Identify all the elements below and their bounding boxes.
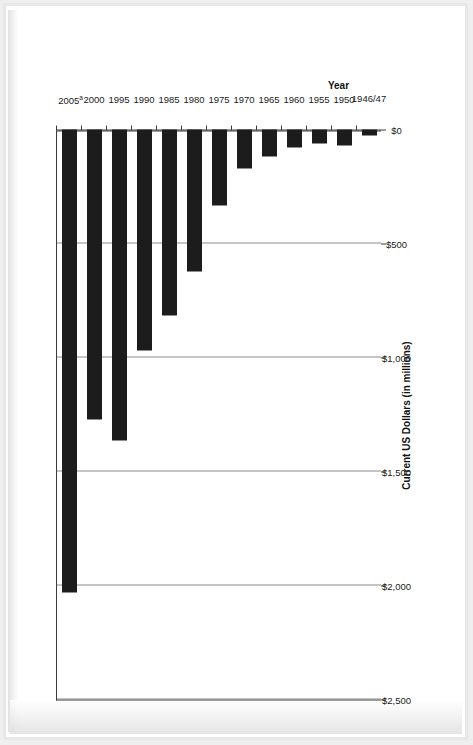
bar (186, 129, 202, 271)
chart-figure: $2,500$2,000$1,500$1,000$500$0 1946/4719… (48, 45, 426, 700)
category-tick-mark (231, 125, 232, 130)
bar (336, 129, 352, 145)
category-tick-label: 1980 (186, 76, 200, 122)
value-tick-label: $0 (391, 110, 402, 150)
category-axis-title-text: Year (327, 80, 348, 91)
bar-row (332, 131, 357, 699)
value-tick-mark (381, 243, 386, 244)
category-tick-mark (131, 125, 132, 130)
bar-row (82, 131, 107, 699)
category-tick-mark (331, 125, 332, 130)
category-tick-label: 1985 (161, 76, 175, 122)
bar-row (132, 131, 157, 699)
value-tick-label: $2,000 (391, 566, 402, 606)
bar (61, 129, 77, 592)
value-tick-mark (381, 129, 386, 130)
value-tick-label: $2,500 (391, 680, 402, 720)
category-tick-label: 2005a (61, 76, 75, 122)
category-tick-label: 1970 (236, 76, 250, 122)
category-tick-label: 1960 (286, 76, 300, 122)
category-tick-mark (281, 125, 282, 130)
bar-row (282, 131, 307, 699)
category-tick-mark (306, 125, 307, 130)
category-tick-label: 1946/47 (361, 76, 375, 122)
category-tick-mark (206, 125, 207, 130)
bar (86, 129, 102, 419)
bar (286, 129, 302, 147)
bar-row (257, 131, 282, 699)
category-tick-label: 2000 (86, 76, 100, 122)
bar (361, 129, 377, 135)
plot-area (56, 130, 381, 700)
bar (211, 129, 227, 205)
category-tick-mark (56, 125, 57, 130)
footnote-marker: a (78, 93, 82, 100)
bar (111, 129, 127, 440)
bar (261, 129, 277, 156)
category-tick-mark (81, 125, 82, 130)
category-tick-label: 1975 (211, 76, 225, 122)
scanned-page: $2,500$2,000$1,500$1,000$500$0 1946/4719… (0, 0, 473, 745)
category-tick-mark (356, 125, 357, 130)
value-tick-label: $1,000 (391, 338, 402, 378)
scan-shadow-left (8, 10, 18, 732)
category-tick-label: 1990 (136, 76, 150, 122)
bar-row (207, 131, 232, 699)
bar-row (107, 131, 132, 699)
bar-row (232, 131, 257, 699)
bar (161, 129, 177, 315)
bar-row (307, 131, 332, 699)
value-tick-label: $1,500 (391, 452, 402, 492)
category-tick-label: 1955 (311, 76, 325, 122)
bar (236, 129, 252, 168)
bar-row (57, 131, 82, 699)
bar-row (157, 131, 182, 699)
bar (311, 129, 327, 143)
category-tick-mark (106, 125, 107, 130)
category-tick-mark (256, 125, 257, 130)
category-tick-mark (156, 125, 157, 130)
category-tick-mark (181, 125, 182, 130)
category-tick-label: 1965 (261, 76, 275, 122)
category-tick-label: 1995 (111, 76, 125, 122)
value-axis-title-text: Current US Dollars (in millions) (401, 341, 412, 489)
bar-row (182, 131, 207, 699)
category-axis-title: Year (333, 75, 344, 96)
value-axis-title: Current US Dollars (in millions) (401, 130, 412, 700)
value-tick-label: $500 (391, 224, 402, 264)
bar-row (357, 131, 382, 699)
bar (136, 129, 152, 350)
